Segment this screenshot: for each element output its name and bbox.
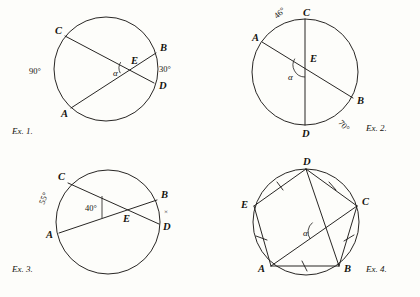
ex4-vertex-label-d: D (302, 156, 311, 167)
ex1-caption: Ex. 1. (11, 126, 33, 136)
ex3-vertex-label-c: C (58, 171, 66, 182)
ex1-chord-cd (65, 36, 154, 83)
ex1-vertex-label-d: D (158, 80, 167, 91)
ex3-caption: Ex. 3. (11, 264, 33, 274)
ex2-vertex-label-e: E (309, 53, 317, 64)
ex2-vertex-label-a: A (251, 32, 259, 43)
ex4-vertex-label-e: E (240, 199, 248, 210)
geometry-figure-sheet: ABCDE90°30°αEx. 1.ABCDE46°70°αEx. 2.ABCD… (0, 0, 420, 297)
ex2-alpha-label: α (288, 72, 293, 82)
ex1-arc-label-90: 90° (29, 66, 41, 76)
ex1-vertex-label-c: C (55, 25, 63, 36)
ex1-vertex-label-e: E (130, 55, 138, 66)
ex4-alpha-label: α (303, 228, 308, 238)
ex2-arc-label-46: 46° (272, 5, 288, 20)
ex4-side-de (254, 169, 306, 206)
ex4-tick-bc (344, 235, 354, 241)
figure-ex3: ABCDE55°40°×Ex. 3. (11, 170, 171, 274)
figure-ex4: ABCDEαEx. 4. (240, 156, 387, 275)
ex3-vertex-label-b: B (160, 189, 168, 200)
ex1-alpha-arc (119, 62, 121, 73)
ex4-caption: Ex. 4. (365, 264, 387, 274)
ex2-vertex-label-d: D (301, 128, 310, 139)
ex4-diagonal-ac (271, 206, 357, 266)
ex2-arc-label-70: 70° (337, 118, 352, 134)
ex2-vertex-label-b: B (356, 95, 364, 106)
ex4-side-cd (306, 169, 357, 206)
ex3-arc-label-55: 55° (37, 191, 51, 206)
ex1-circle (54, 17, 158, 121)
ex1-alpha-label: α (113, 68, 118, 78)
ex4-tick-ea (256, 236, 267, 240)
ex1-vertex-label-a: A (60, 108, 68, 119)
ex3-vertex-label-d: D (162, 221, 171, 232)
ex3-angle-label-40: 40° (85, 203, 97, 213)
ex1-vertex-label-b: B (159, 42, 167, 53)
ex2-vertex-label-c: C (303, 7, 311, 18)
ex3-circle (56, 170, 160, 274)
ex1-arc-label-30: 30° (159, 64, 171, 74)
ex4-side-bc (339, 206, 357, 266)
ex3-vertex-label-a: A (45, 229, 53, 240)
figure-ex2: ABCDE46°70°αEx. 2. (251, 5, 387, 139)
figure-ex1: ABCDE90°30°αEx. 1. (11, 17, 171, 136)
ex4-vertex-label-b: B (343, 263, 351, 274)
ex4-alpha-arc (308, 223, 313, 240)
ex4-vertex-label-a: A (257, 263, 265, 274)
ex2-chord-ab (262, 42, 353, 98)
ex3-vertex-label-e: E (122, 213, 130, 224)
ex4-diagonal-db (306, 169, 339, 266)
ex2-caption: Ex. 2. (365, 123, 387, 133)
ex3-arc-mark-x: × (164, 208, 168, 216)
ex4-vertex-label-c: C (362, 196, 370, 207)
